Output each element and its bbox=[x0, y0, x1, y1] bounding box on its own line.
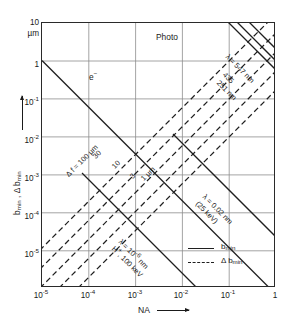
x-tick-1e-2: 10-2 bbox=[174, 291, 189, 300]
x-tick-1e-1: 10-1 bbox=[221, 291, 236, 300]
legend-swatch-solid bbox=[188, 248, 214, 249]
legend-row-bmin: bmin bbox=[188, 242, 270, 256]
horizontal-gridlines bbox=[42, 61, 275, 251]
legend-label-bmin: bmin bbox=[221, 242, 235, 251]
x-axis-title: NA bbox=[138, 305, 150, 315]
x-tick-1e-3: 10-3 bbox=[128, 291, 143, 300]
plot-area: Photo e− λ = 547 nm 435 251 nm λ = 0.02 … bbox=[41, 22, 275, 287]
x-tick-1e-4: 10-4 bbox=[81, 291, 96, 300]
legend: bmin Δ bmin bbox=[188, 242, 270, 270]
legend-label-delta-bmin: Δ bmin bbox=[221, 256, 243, 265]
diffraction-resolution-chart: 10 µm 1 10-1 10-2 10-3 10-4 10-5 bmin , … bbox=[0, 0, 292, 321]
annotation-photo: Photo bbox=[156, 32, 178, 42]
legend-row-delta-bmin: Δ bmin bbox=[188, 256, 270, 270]
annotation-electron: e− bbox=[89, 72, 97, 82]
x-axis-arrow bbox=[157, 310, 189, 311]
x-tick-1e-5: 10-5 bbox=[34, 291, 49, 300]
x-tick-1: 1 bbox=[273, 291, 278, 300]
legend-swatch-dashed bbox=[188, 262, 214, 263]
